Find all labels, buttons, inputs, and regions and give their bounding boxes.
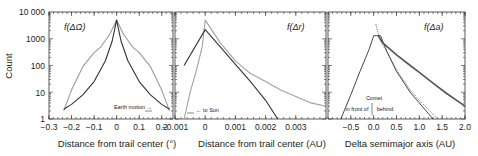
x-tick-label: −0.1 — [86, 122, 103, 132]
x-tick-label: 0.003 — [285, 122, 307, 132]
x-tick-label: 0 — [114, 122, 119, 132]
x-tick-label: −0.001 — [162, 122, 189, 132]
figure: −0.3−0.2−0.100.10.2−0.00100.0010.0020.00… — [0, 0, 478, 156]
y-axis-label: Count — [3, 53, 14, 79]
data-series — [184, 30, 278, 119]
plot-frame — [328, 12, 465, 119]
annotation-earth-motion: Earth motion → — [114, 104, 152, 110]
chart-panel-1: −0.3−0.2−0.100.10.2 — [41, 12, 173, 132]
annotation-in-front-of: in front of — [346, 106, 369, 112]
x-tick-label: −0.2 — [63, 122, 80, 132]
y-tick-label: 1000 — [26, 34, 45, 44]
y-tick-label: 10 — [36, 88, 46, 98]
annotation-arrows — [145, 103, 372, 115]
x-tick-label: 0.5 — [391, 122, 403, 132]
x-tick-label: −0.5 — [342, 122, 359, 132]
y-tick-label: 100 — [31, 61, 45, 71]
x-tick-label: 1.5 — [436, 122, 448, 132]
x-tick-label: 0.001 — [225, 122, 247, 132]
data-series — [378, 36, 465, 107]
x-axis-label-panel-3: Delta semimajor axis (AU) — [345, 138, 455, 149]
x-axis-label-panel-2: Distance from trail center (AU) — [198, 138, 326, 149]
x-tick-label: 0.002 — [255, 122, 277, 132]
y-tick-label: 10 000 — [19, 7, 45, 17]
panel-label-r: f(Δr) — [287, 22, 305, 32]
x-tick-label: 2.0 — [459, 122, 471, 132]
x-tick-label: 1.0 — [413, 122, 425, 132]
chart-panel-3: −0.50.00.51.01.52.0 — [328, 12, 471, 132]
data-series — [376, 24, 438, 119]
panel-label-a: f(Δa) — [424, 22, 444, 32]
annotation-to-sun: ← to Sun — [196, 107, 219, 113]
data-series — [64, 20, 170, 109]
y-tick-label: 1 — [40, 114, 45, 124]
x-tick-label: 0.1 — [133, 122, 145, 132]
y-tick-labels: 10 000 1000 100 10 1 — [19, 7, 45, 124]
annotation-behind: behind — [377, 106, 394, 112]
x-tick-label: 0 — [203, 122, 208, 132]
panel-label-omega: f(ΔΩ) — [64, 22, 85, 32]
x-axis-label-panel-1: Distance from trail center (°) — [58, 138, 176, 149]
x-tick-label: 0.0 — [368, 122, 380, 132]
annotation-comet: Comet — [366, 95, 383, 101]
data-series — [184, 20, 326, 119]
